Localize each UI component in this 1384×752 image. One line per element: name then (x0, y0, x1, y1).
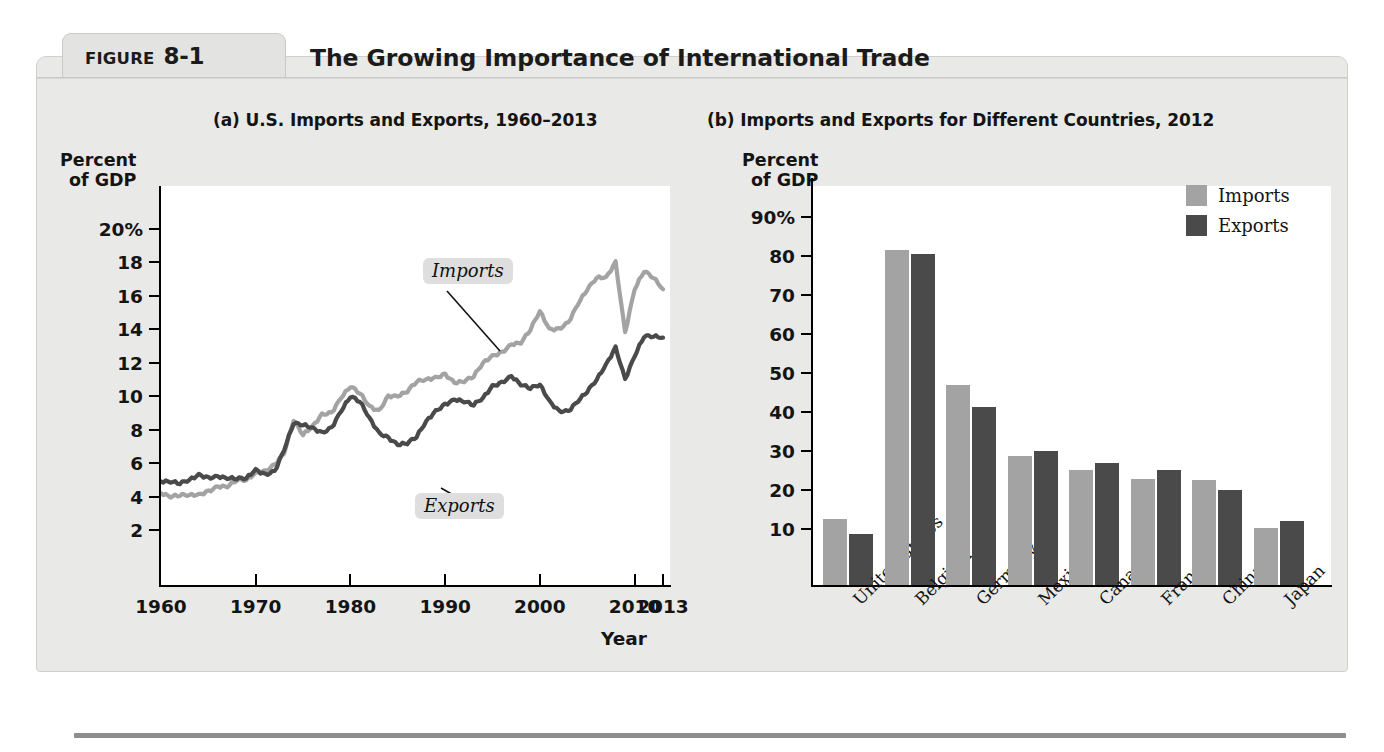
panel-a-heading: (a) U.S. Imports and Exports, 1960–2013 (213, 110, 598, 130)
panel-a-y-tick (149, 328, 160, 330)
panel-a-caption-line2: of GDP (69, 170, 136, 190)
panel-b-y-tick (801, 216, 812, 218)
panel-a-y-tick-label: 18 (117, 252, 143, 273)
panel-a-axis-caption: Percent of GDP (60, 150, 136, 190)
figure-tab-rule (37, 77, 1347, 79)
panel-a-y-axis (159, 186, 161, 587)
exports-swatch-icon (1186, 215, 1207, 236)
panel-a-y-tick (149, 395, 160, 397)
panel-a-y-tick (149, 228, 160, 230)
legend-label: Imports (1218, 185, 1290, 206)
panel-b-y-tick (801, 333, 812, 335)
legend-item-imports: Imports (1186, 180, 1290, 210)
panel-b-y-tick (801, 294, 812, 296)
bar-imports (1254, 528, 1278, 585)
bar-imports (1131, 479, 1155, 585)
panel-a-y-tick (149, 496, 160, 498)
panel-a-y-tick (149, 295, 160, 297)
panel-a-x-tick-label: 2000 (514, 596, 566, 617)
bar-exports (1157, 470, 1181, 585)
panel-b-y-tick-label: 30 (769, 441, 795, 462)
exports-line (161, 335, 663, 484)
bar-exports (972, 407, 996, 585)
panel-b-caption-line2: of GDP (751, 170, 818, 190)
bar-exports (1034, 451, 1058, 585)
panel-a-line-chart (160, 186, 670, 585)
panel-b-y-tick (801, 450, 812, 452)
panel-b-y-tick-label: 90% (751, 207, 795, 228)
figure-tab-label: FIGURE 8-1 (63, 43, 204, 69)
bar-imports (1069, 470, 1093, 585)
bar-exports (1218, 490, 1242, 585)
legend-label: Exports (1218, 215, 1289, 236)
imports-annotation: Imports (423, 258, 513, 284)
bar-exports (1095, 463, 1119, 585)
panel-b-y-tick-label: 50 (769, 363, 795, 384)
panel-a-x-tick-label: 1990 (419, 596, 471, 617)
panel-b-y-tick (801, 489, 812, 491)
panel-b-heading: (b) Imports and Exports for Different Co… (707, 110, 1214, 130)
panel-a-x-axis-label: Year (601, 628, 647, 649)
bar-imports (946, 385, 970, 585)
panel-b-y-tick-label: 60 (769, 324, 795, 345)
panel-b-y-tick-label: 80 (769, 246, 795, 267)
panel-a-x-tick (634, 574, 636, 585)
panel-a-y-tick (149, 362, 160, 364)
panel-a-y-tick-label: 12 (117, 352, 143, 373)
legend-item-exports: Exports (1186, 210, 1290, 240)
panel-a-x-tick-label: 2013 (637, 596, 689, 617)
panel-a-y-tick-label: 2 (130, 520, 143, 541)
panel-a-x-tick (539, 574, 541, 585)
panel-b-y-tick-label: 70 (769, 285, 795, 306)
bar-imports (1192, 480, 1216, 585)
panel-a-x-tick-label: 1980 (325, 596, 377, 617)
figure-bottom-rule (74, 733, 1346, 738)
panel-a-plot-area (160, 186, 670, 585)
panel-a-x-tick-label: 1960 (135, 596, 187, 617)
panel-b-axis-caption: Percent of GDP (742, 150, 818, 190)
panel-b-y-tick (801, 255, 812, 257)
panel-a-y-tick (149, 462, 160, 464)
bar-imports (885, 250, 909, 585)
panel-a-y-tick-label: 4 (130, 486, 143, 507)
panel-b-y-tick-label: 10 (769, 519, 795, 540)
panel-b-y-axis (811, 178, 813, 587)
panel-a-y-tick (149, 429, 160, 431)
panel-a-x-tick (662, 574, 664, 585)
panel-a-x-tick-label: 1970 (230, 596, 282, 617)
bar-exports (911, 254, 935, 586)
panel-a-y-tick-label: 16 (117, 285, 143, 306)
figure-title: The Growing Importance of International … (310, 44, 930, 72)
panel-a-x-tick (255, 574, 257, 585)
imports-swatch-icon (1186, 185, 1207, 206)
figure-number-tab: FIGURE 8-1 (62, 33, 286, 77)
panel-b-caption-line1: Percent (742, 150, 818, 170)
panel-b-y-tick (801, 411, 812, 413)
panel-a-y-tick (149, 529, 160, 531)
panel-a-y-tick-label: 8 (130, 419, 143, 440)
panel-a-x-tick (349, 574, 351, 585)
panel-a-x-tick (444, 574, 446, 585)
panel-a-y-tick-label: 14 (117, 319, 143, 340)
bar-imports (823, 519, 847, 585)
panel-b-y-tick (801, 372, 812, 374)
panel-a-y-tick-label: 20% (99, 219, 143, 240)
figure-tab-word: FIGURE (85, 49, 155, 68)
panel-a-x-axis (159, 585, 671, 587)
panel-b-y-tick-label: 40 (769, 402, 795, 423)
panel-b-y-tick-label: 20 (769, 480, 795, 501)
figure-tab-number: 8-1 (164, 43, 205, 69)
panel-b-legend: ImportsExports (1186, 180, 1290, 240)
panel-b-y-tick (801, 528, 812, 530)
imports-line (161, 261, 663, 497)
bar-imports (1008, 456, 1032, 585)
panel-a-caption-line1: Percent (60, 150, 136, 170)
panel-a-y-tick-label: 10 (117, 386, 143, 407)
panel-a-y-tick-label: 6 (130, 453, 143, 474)
exports-annotation: Exports (415, 493, 504, 519)
panel-a-y-tick (149, 261, 160, 263)
